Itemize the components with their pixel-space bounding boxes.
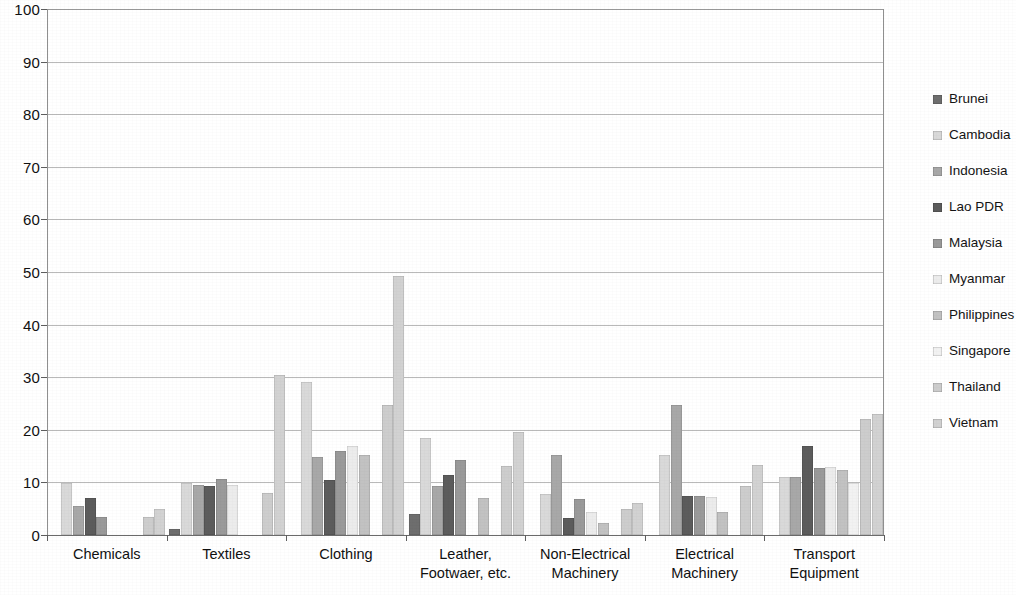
y-tick-label: 80	[2, 107, 40, 122]
grouped-bar-chart: 1009080706050403020100 ChemicalsTextiles…	[0, 0, 1016, 595]
legend-item[interactable]: Singapore	[933, 344, 1016, 380]
x-tick-mark	[167, 535, 168, 541]
bar	[193, 485, 204, 535]
bar	[598, 523, 609, 535]
y-tick-label: 10	[2, 475, 40, 490]
bar	[513, 432, 524, 535]
legend-item[interactable]: Cambodia	[933, 128, 1016, 164]
y-tick-mark	[41, 482, 47, 483]
bar	[825, 467, 836, 535]
legend-label: Indonesia	[949, 164, 1008, 178]
bar	[169, 529, 180, 535]
bar	[324, 480, 335, 535]
y-tick-label: 30	[2, 370, 40, 385]
bar	[586, 512, 597, 535]
legend-item[interactable]: Lao PDR	[933, 200, 1016, 236]
x-tick-mark	[525, 535, 526, 541]
bar	[837, 470, 848, 535]
y-tick-mark	[41, 219, 47, 220]
bar	[717, 512, 728, 535]
bar	[540, 494, 551, 535]
bar	[621, 509, 632, 535]
bar	[872, 414, 883, 535]
x-axis-label: Leather, Footwaer, etc.	[406, 545, 526, 583]
bar	[154, 509, 165, 535]
x-axis-category-labels: ChemicalsTextilesClothingLeather, Footwa…	[47, 545, 884, 595]
x-tick-mark	[47, 535, 48, 541]
bar	[301, 382, 312, 535]
bar	[420, 438, 431, 535]
bar	[682, 496, 693, 535]
legend-swatch-icon	[933, 95, 942, 104]
y-tick-mark	[41, 62, 47, 63]
x-tick-mark	[406, 535, 407, 541]
bar	[694, 496, 705, 535]
bar	[312, 457, 323, 535]
y-tick-label: 70	[2, 160, 40, 175]
legend-item[interactable]: Myanmar	[933, 272, 1016, 308]
legend-label: Philippines	[949, 308, 1014, 322]
bar	[262, 493, 273, 535]
legend-item[interactable]: Brunei	[933, 92, 1016, 128]
bar	[73, 506, 84, 535]
y-tick-label: 40	[2, 318, 40, 333]
bar	[563, 518, 574, 535]
legend-label: Cambodia	[949, 128, 1011, 142]
legend-label: Thailand	[949, 380, 1001, 394]
y-tick-mark	[41, 272, 47, 273]
bar	[632, 503, 643, 535]
legend-swatch-icon	[933, 275, 942, 284]
bar	[752, 465, 763, 535]
legend-label: Malaysia	[949, 236, 1002, 250]
bar	[204, 486, 215, 535]
bar	[85, 498, 96, 535]
x-axis-label: Clothing	[286, 545, 406, 564]
legend-swatch-icon	[933, 419, 942, 428]
legend-label: Brunei	[949, 92, 988, 106]
bar	[409, 514, 420, 535]
bar	[274, 375, 285, 535]
legend-item[interactable]: Indonesia	[933, 164, 1016, 200]
y-tick-mark	[41, 377, 47, 378]
x-tick-mark	[286, 535, 287, 541]
bar	[551, 455, 562, 535]
bar	[671, 405, 682, 535]
y-axis-tick-labels: 1009080706050403020100	[0, 9, 40, 535]
legend-swatch-icon	[933, 239, 942, 248]
x-axis-label: Electrical Machinery	[645, 545, 765, 583]
legend-swatch-icon	[933, 131, 942, 140]
x-axis-label: Non-Electrical Machinery	[525, 545, 645, 583]
y-tick-label: 100	[2, 2, 40, 17]
y-tick-mark	[41, 430, 47, 431]
y-tick-mark	[41, 114, 47, 115]
y-tick-label: 60	[2, 212, 40, 227]
x-axis-label: Transport Equipment	[764, 545, 884, 583]
legend-item[interactable]: Philippines	[933, 308, 1016, 344]
bar	[393, 276, 404, 535]
plot-area	[47, 9, 884, 535]
bar	[802, 446, 813, 535]
bar	[181, 483, 192, 535]
legend-swatch-icon	[933, 383, 942, 392]
bar	[790, 477, 801, 535]
legend-item[interactable]: Vietnam	[933, 416, 1016, 452]
legend-item[interactable]: Thailand	[933, 380, 1016, 416]
legend-swatch-icon	[933, 311, 942, 320]
bar	[335, 451, 346, 535]
y-tick-label: 20	[2, 423, 40, 438]
bar	[501, 466, 512, 535]
x-tick-mark	[884, 535, 885, 541]
bar	[455, 460, 466, 535]
bar	[848, 483, 859, 535]
legend-label: Singapore	[949, 344, 1011, 358]
legend-item[interactable]: Malaysia	[933, 236, 1016, 272]
legend-swatch-icon	[933, 203, 942, 212]
gridline-0	[47, 535, 884, 536]
x-axis-label: Textiles	[167, 545, 287, 564]
legend-label: Vietnam	[949, 416, 998, 430]
legend-swatch-icon	[933, 167, 942, 176]
legend-label: Myanmar	[949, 272, 1005, 286]
x-tick-mark	[645, 535, 646, 541]
bar	[96, 517, 107, 535]
y-tick-label: 0	[2, 528, 40, 543]
